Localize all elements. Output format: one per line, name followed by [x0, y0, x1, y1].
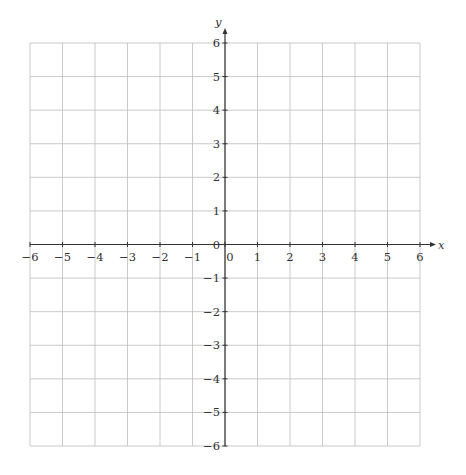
y-axis-arrow-icon [223, 28, 228, 34]
x-tick-label: −1 [184, 250, 201, 264]
x-tick-label: 4 [351, 250, 358, 264]
x-tick-label: 2 [286, 250, 293, 264]
x-tick-label: 3 [319, 250, 326, 264]
x-tick-label: −2 [152, 250, 169, 264]
x-tick-label: 6 [416, 250, 423, 264]
y-tick-label: 4 [213, 103, 220, 117]
y-tick-label: −6 [203, 439, 220, 453]
y-tick-label: 0 [213, 238, 220, 252]
x-tick-label: −4 [87, 250, 104, 264]
y-tick-label: 6 [213, 36, 220, 50]
y-axis-label: y [214, 15, 222, 29]
y-tick-label: 1 [213, 204, 220, 218]
x-axis-arrow-icon [430, 242, 436, 247]
x-axis-label: x [438, 238, 445, 252]
y-tick-label: 2 [213, 170, 220, 184]
x-tick-label: −3 [119, 250, 136, 264]
coordinate-plane: −6−5−4−3−2−10123456 −6−5−4−3−2−10123456 … [0, 0, 466, 475]
x-axis-ticks: −6−5−4−3−2−10123456 [22, 242, 424, 264]
y-tick-label: −3 [203, 338, 220, 352]
y-tick-label: 3 [213, 137, 220, 151]
x-tick-label: −5 [54, 250, 71, 264]
y-tick-label: −1 [203, 271, 220, 285]
y-tick-label: 5 [213, 70, 220, 84]
y-tick-label: −5 [203, 405, 220, 419]
x-tick-label: 5 [384, 250, 391, 264]
y-tick-label: −2 [203, 305, 220, 319]
x-tick-label: 1 [254, 250, 261, 264]
x-tick-label: 0 [226, 250, 233, 264]
y-tick-label: −4 [203, 372, 220, 386]
axes [30, 28, 436, 446]
x-tick-label: −6 [22, 250, 39, 264]
